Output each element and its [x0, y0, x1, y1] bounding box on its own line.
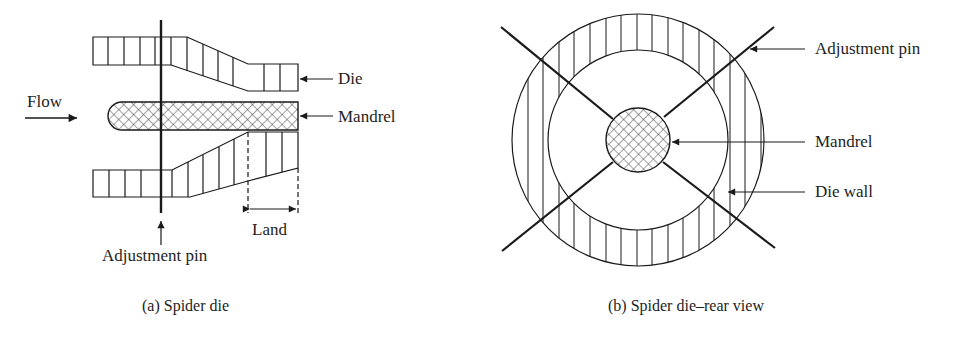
flow-label: Flow [27, 93, 62, 110]
rear-adjustment-pin-label: Adjustment pin [815, 40, 920, 57]
panel-b-caption: (b) Spider die–rear view [608, 298, 764, 314]
mandrel-circle [606, 108, 670, 172]
rear-mandrel-label: Mandrel [815, 133, 873, 150]
die-wall-label: Die wall [815, 183, 873, 200]
panel-a-caption: (a) Spider die [142, 298, 229, 314]
panel-b-rear-view [501, 10, 805, 270]
adjustment-pin-diagonal-1 [501, 27, 613, 119]
adjustment-pin-diagonal-2 [664, 27, 774, 117]
land-label: Land [252, 221, 287, 238]
die-label: Die [338, 70, 363, 87]
mandrel-label: Mandrel [338, 108, 396, 125]
adjustment-pin-label: Adjustment pin [102, 247, 207, 264]
top-die-section [93, 37, 298, 91]
panel-a-spider-die [25, 20, 333, 245]
mandrel-shape [108, 102, 298, 130]
bottom-die-section [93, 132, 298, 197]
